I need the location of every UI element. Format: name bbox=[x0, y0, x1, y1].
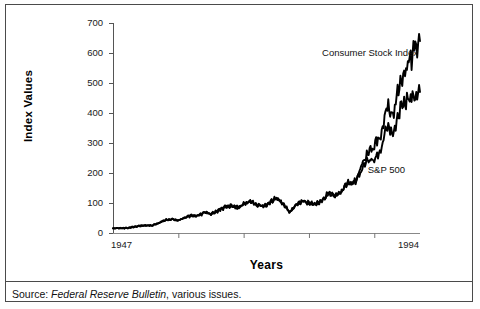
source-detail: , various issues. bbox=[166, 288, 241, 300]
x-tick-label: 1947 bbox=[111, 240, 132, 250]
source-note: Source: Federal Reserve Bulletin, variou… bbox=[12, 288, 241, 301]
series-annotation-consumer-stock-index: Consumer Stock Index bbox=[322, 47, 418, 58]
x-axis-title: Years bbox=[113, 258, 420, 272]
y-axis-ticks bbox=[109, 24, 113, 234]
y-axis-title: Index Values bbox=[22, 46, 34, 166]
y-tick-label: 100 bbox=[77, 198, 103, 208]
y-tick-label: 400 bbox=[77, 108, 103, 118]
y-tick-label: 500 bbox=[77, 78, 103, 88]
chart-series-group bbox=[113, 34, 420, 229]
y-tick-label: 0 bbox=[77, 228, 103, 238]
source-publication: Federal Reserve Bulletin bbox=[51, 288, 166, 300]
source-label: Source: bbox=[12, 288, 48, 300]
panel-divider bbox=[5, 281, 473, 282]
series-line-consumer-stock-index bbox=[113, 34, 420, 229]
figure-container: Index Values Years 010020030040050060070… bbox=[0, 0, 480, 309]
y-tick-label: 300 bbox=[77, 138, 103, 148]
x-tick-label: 1994 bbox=[398, 240, 419, 250]
chart-plot-area: Index Values Years 010020030040050060070… bbox=[0, 0, 480, 281]
y-tick-label: 200 bbox=[77, 168, 103, 178]
y-tick-label: 600 bbox=[77, 48, 103, 58]
series-annotation-sp-500: S&P 500 bbox=[368, 164, 405, 175]
y-tick-label: 700 bbox=[77, 18, 103, 28]
